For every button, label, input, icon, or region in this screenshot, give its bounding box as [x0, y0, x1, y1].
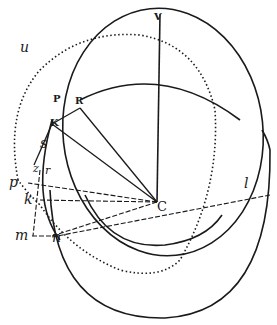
label-k: k [24, 192, 32, 206]
label-K: K [50, 118, 59, 128]
label-u: u [20, 40, 29, 54]
line-CR [80, 108, 157, 202]
inner-arc [80, 84, 240, 120]
label-V: V [154, 12, 162, 22]
outer-ellipse [51, 0, 276, 266]
label-m: m [15, 228, 28, 242]
label-z: z [33, 163, 39, 174]
label-p: p [9, 175, 18, 189]
line-Cn [52, 202, 157, 236]
line-zm [33, 170, 40, 236]
geometry-figure: V u P R K s z r p k C m n l [0, 0, 277, 325]
label-l: l [244, 176, 248, 190]
label-n: n [52, 230, 61, 244]
label-R: R [75, 96, 83, 106]
diagram-drawing [0, 0, 277, 325]
label-r: r [45, 165, 50, 176]
line-CV [157, 14, 160, 202]
label-s: s [40, 136, 47, 150]
label-C: C [157, 200, 167, 213]
line-Cp [28, 183, 157, 202]
large-circle-arc [50, 130, 270, 318]
line-Ck [38, 200, 157, 202]
label-P: P [53, 94, 61, 104]
